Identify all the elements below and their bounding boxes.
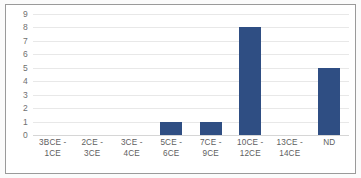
bar-series (33, 14, 349, 135)
y-axis-tick-label: 6 (23, 50, 28, 59)
x-axis-tick-label: 2CE - 3CE (73, 138, 113, 159)
y-axis-tick-label: 0 (23, 131, 28, 140)
y-axis-tick-label: 4 (23, 77, 28, 86)
bar-slot (112, 14, 152, 135)
bar-slot (231, 14, 271, 135)
bar[interactable] (318, 68, 340, 135)
x-axis: 3BCE - 1CE2CE - 3CE3CE - 4CE5CE - 6CE7CE… (33, 138, 349, 159)
bar-slot (310, 14, 350, 135)
x-axis-tick-label: 3CE - 4CE (112, 138, 152, 159)
x-axis-tick-label: ND (310, 138, 350, 159)
bar-slot (73, 14, 113, 135)
chart-plot-frame: 9876543210 3BCE - 1CE2CE - 3CE3CE - 4CE5… (5, 4, 356, 174)
y-axis-tick-label: 8 (23, 23, 28, 32)
bar[interactable] (239, 27, 261, 135)
y-axis-tick-label: 7 (23, 37, 28, 46)
y-axis-tick-label: 5 (23, 64, 28, 73)
x-axis-tick-label: 13CE - 14CE (270, 138, 310, 159)
bar[interactable] (160, 122, 182, 135)
zero-gridline (33, 135, 349, 136)
y-axis-tick-label: 1 (23, 117, 28, 126)
x-axis-tick-label: 5CE - 6CE (152, 138, 192, 159)
y-axis-tick-label: 3 (23, 90, 28, 99)
x-axis-tick-label: 10CE - 12CE (231, 138, 271, 159)
chart-figure: 9876543210 3BCE - 1CE2CE - 3CE3CE - 4CE5… (0, 0, 361, 178)
bar-slot (152, 14, 192, 135)
bar-slot (33, 14, 73, 135)
bar-slot (191, 14, 231, 135)
plot-area (33, 14, 349, 135)
y-axis-tick-label: 2 (23, 104, 28, 113)
y-axis-tick-label: 9 (23, 10, 28, 19)
plot-wrapper: 9876543210 3BCE - 1CE2CE - 3CE3CE - 4CE5… (6, 5, 355, 173)
y-axis: 9876543210 (6, 14, 32, 135)
bar[interactable] (200, 122, 222, 135)
x-axis-tick-label: 7CE - 9CE (191, 138, 231, 159)
x-axis-tick-label: 3BCE - 1CE (33, 138, 73, 159)
bar-slot (270, 14, 310, 135)
